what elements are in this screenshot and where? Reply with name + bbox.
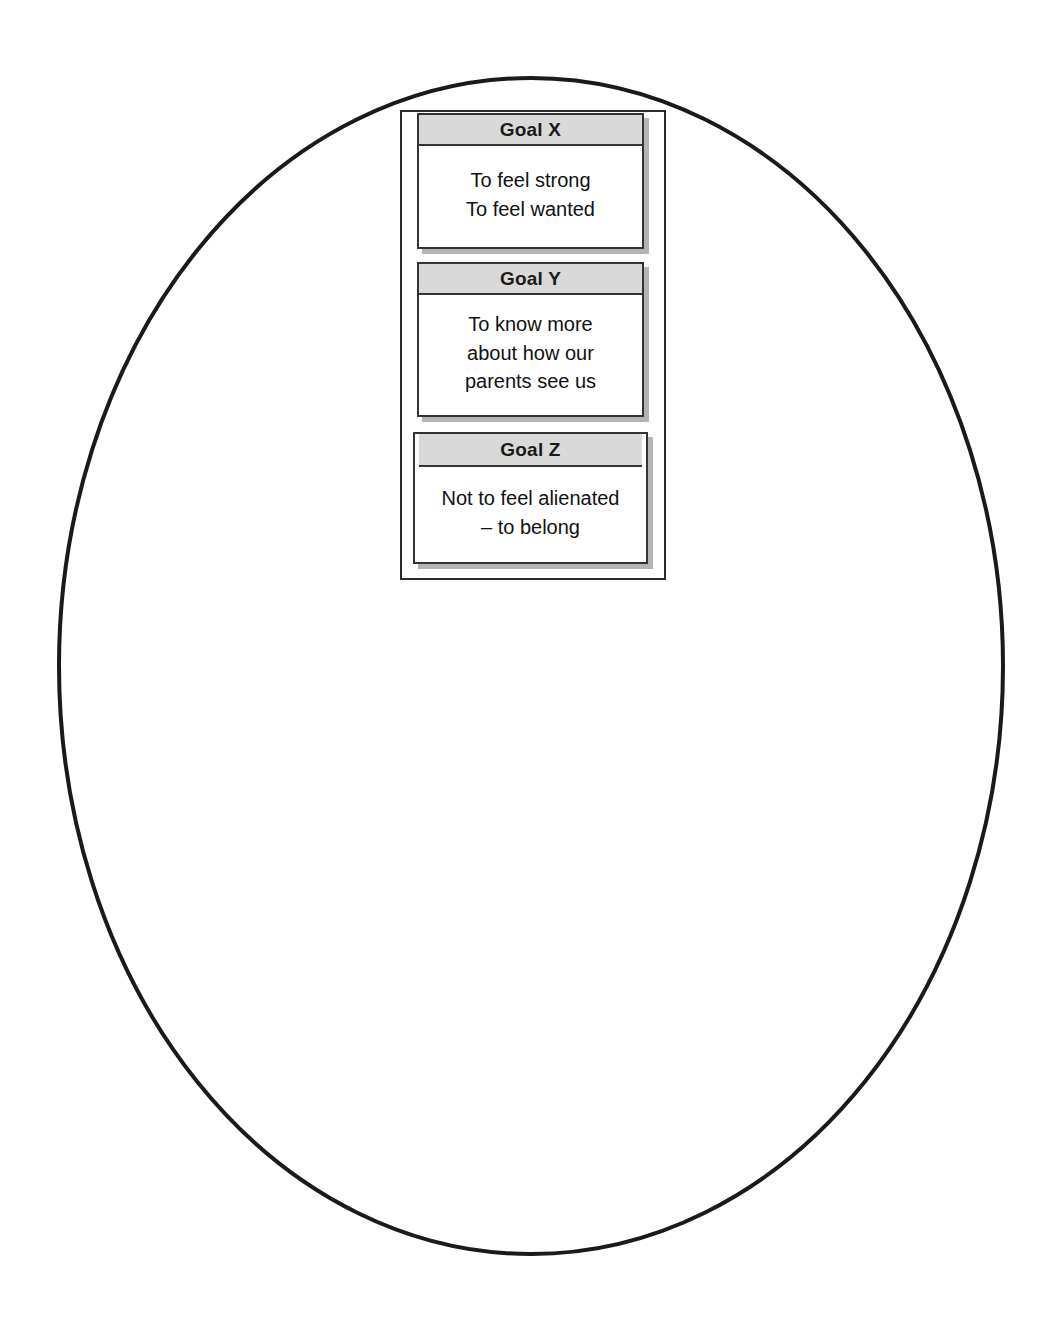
goal-card-y-body: To know more about how our parents see u…: [419, 295, 642, 415]
goals-card-stack: Goal X To feel strong To feel wanted Goa…: [400, 110, 666, 580]
goal-card-y[interactable]: Goal Y To know more about how our parent…: [417, 262, 644, 417]
goal-card-x-header: Goal X: [419, 115, 642, 146]
goal-card-z-body: Not to feel alienated – to belong: [415, 467, 646, 562]
goal-card-y-header: Goal Y: [419, 264, 642, 295]
goal-card-x-body: To feel strong To feel wanted: [419, 146, 642, 247]
goal-card-z[interactable]: Goal Z Not to feel alienated – to belong: [413, 432, 648, 564]
goal-card-z-header: Goal Z: [419, 434, 642, 467]
goal-card-x[interactable]: Goal X To feel strong To feel wanted: [417, 113, 644, 249]
diagram-canvas: Goal X To feel strong To feel wanted Goa…: [0, 0, 1062, 1325]
